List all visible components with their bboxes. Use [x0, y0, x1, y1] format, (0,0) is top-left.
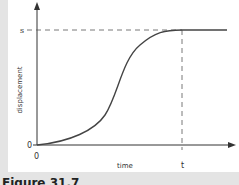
y-axis-label: displacement	[16, 66, 24, 113]
x-axis-label: time	[117, 162, 133, 170]
figure-caption: Figure 31.7	[2, 176, 79, 185]
y-tick-0: 0	[27, 141, 32, 150]
y-tick-s: s	[20, 26, 24, 35]
x-tick-0: 0	[34, 152, 39, 161]
displacement-curve	[37, 30, 227, 145]
x-tick-t: t	[181, 161, 184, 170]
displacement-time-chart: s 0 0 t time displacement	[0, 0, 239, 185]
